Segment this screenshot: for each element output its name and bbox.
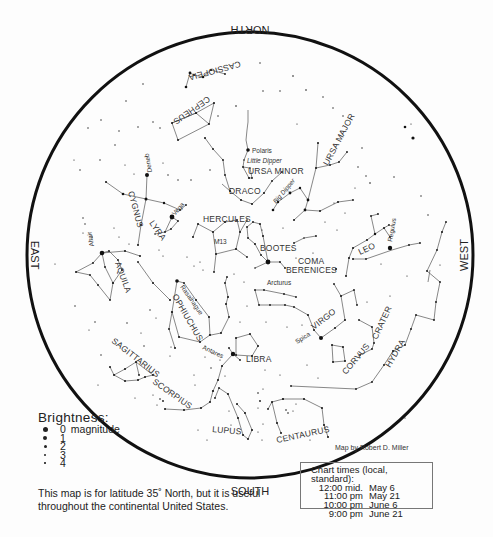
label-lyra: LYRA — [147, 218, 168, 242]
label-m13: M13 — [214, 238, 227, 245]
star-altair — [100, 251, 105, 256]
magnitude-dot-icon — [44, 445, 47, 448]
label-lupus: LUPUS — [212, 424, 242, 437]
label-bootes: BOOTES — [260, 243, 297, 253]
label-libra: LIBRA — [246, 354, 272, 364]
label-spica: Spica — [294, 330, 312, 346]
chart-time-row: 9:00 pmJune 21 — [301, 510, 432, 519]
label-polaris: Polaris — [252, 147, 273, 154]
chart-time-row: 12:00 mid.May 6 — [301, 484, 432, 493]
label-scorpius: SCORPIUS — [151, 376, 195, 411]
label-aquila: AQUILA — [113, 260, 134, 294]
star-regulus — [388, 246, 392, 250]
star-spica — [319, 336, 323, 340]
label-little-dipper: Little Dipper — [247, 157, 283, 165]
label-cassiopeia: CASSIOPEIA — [188, 59, 242, 83]
label-ursa-major: URSA MAJOR — [321, 112, 357, 167]
latitude-note: This map is for latitude 35˚ North, but … — [38, 487, 278, 513]
legend-row-3: 3 — [38, 451, 120, 460]
label-ursa-minor: URSA MINOR — [248, 166, 304, 176]
chart-times-box: Chart times (local, standard): 12:00 mid… — [300, 462, 433, 509]
star-arcturus — [266, 260, 271, 265]
label-draco: DRACO — [229, 186, 261, 196]
star-rasalhague — [175, 279, 179, 283]
label-hydra: HYDRA — [383, 337, 407, 369]
star-polaris — [246, 148, 250, 152]
magnitude-dot-icon — [44, 454, 46, 456]
star-antares — [231, 352, 235, 356]
chart-time-row: 11:00 pmMay 21 — [301, 492, 432, 501]
chart-time-row: 10:00 pmJune 6 — [301, 501, 432, 510]
label-altair: Altair — [85, 230, 95, 247]
label-virgo: VIRGO — [309, 306, 338, 331]
magnitude-dot-icon — [44, 462, 46, 464]
label-regulus: Regulus — [386, 217, 398, 243]
direction-east: EAST — [29, 241, 41, 270]
label-arcturus: Arcturus — [267, 279, 292, 286]
label-cygnus: CYGNUS — [126, 190, 145, 229]
label-berenices: BERENICES — [286, 265, 337, 275]
legend-row-0: 0 magnitude — [38, 425, 120, 434]
label-cepheus: CEPHEUS — [171, 94, 212, 127]
label-crater: CRATER — [370, 304, 394, 340]
label-big-dipper: Big Dipper — [271, 176, 297, 205]
chart-times-header: Chart times (local, standard): — [301, 466, 432, 484]
map-credit: Map by Robert D. Miller — [335, 444, 409, 451]
legend-row-2: 2 — [38, 442, 120, 451]
brightness-legend: Brightness: 0 magnitude 1 2 3 4 — [38, 411, 120, 468]
magnitude-dot-icon — [43, 436, 47, 440]
label-leo: LEO — [357, 240, 377, 257]
label-deneb: Deneb — [143, 153, 153, 173]
label-centaurus: CENTAURUS — [275, 424, 330, 445]
magnitude-dot-icon — [43, 427, 48, 432]
direction-north: NORTH — [230, 24, 269, 36]
legend-row-4: 4 — [38, 459, 120, 468]
label-hercules: HERCULES — [203, 214, 251, 224]
direction-west: WEST — [458, 239, 470, 271]
label-vega: Vega — [170, 200, 186, 217]
